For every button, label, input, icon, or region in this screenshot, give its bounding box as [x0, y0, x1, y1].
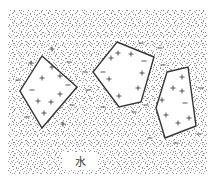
water-label-text: 水 — [75, 153, 86, 169]
water-label: 水 — [62, 152, 98, 170]
particles-in-water-diagram — [0, 0, 215, 180]
